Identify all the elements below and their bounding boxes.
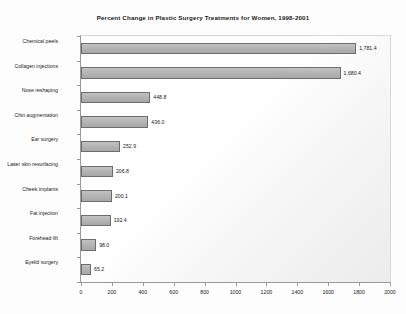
bar-value-label: 98.0	[99, 240, 109, 250]
chart-title: Percent Change in Plastic Surgery Treatm…	[0, 14, 406, 21]
x-axis-tick	[236, 283, 237, 286]
category-label: Collagen injections	[0, 61, 58, 71]
x-axis-tick	[359, 283, 360, 286]
bar[interactable]	[81, 92, 150, 104]
bar[interactable]	[81, 166, 113, 178]
y-axis-tick	[77, 208, 80, 209]
bar-row: Cheek implants 200.1	[81, 184, 390, 209]
category-label: Laser skin resurfacing	[0, 159, 58, 169]
category-label: Cheek implants	[0, 184, 58, 194]
bar-row: Laser skin resurfacing 206.8	[81, 159, 390, 184]
bar-value-label: 436.0	[151, 117, 164, 127]
x-axis-tick	[174, 283, 175, 286]
y-axis-tick	[77, 159, 80, 160]
bar-row: Forehead lift 98.0	[81, 233, 390, 258]
bar-row: Collagen injections 1,680.4	[81, 61, 390, 86]
x-axis-tick	[81, 283, 82, 286]
bar[interactable]	[81, 264, 91, 276]
x-axis-tick	[297, 283, 298, 286]
bar-row: Ear surgery 252.9	[81, 134, 390, 159]
bar-row: Nose reshaping 448.8	[81, 85, 390, 110]
category-label: Fat injection	[0, 208, 58, 218]
bar[interactable]	[81, 67, 341, 79]
bar[interactable]	[81, 141, 120, 153]
x-axis-tick	[112, 283, 113, 286]
x-axis-tick	[266, 283, 267, 286]
bar[interactable]	[81, 190, 112, 202]
plot-area: Chemical peels 1,781.4 Collagen injectio…	[81, 36, 390, 282]
category-label: Chin augmentation	[0, 110, 58, 120]
x-axis-tick	[390, 283, 391, 286]
x-axis-tick	[328, 283, 329, 286]
category-label: Chemical peels	[0, 36, 58, 46]
y-axis-tick	[77, 61, 80, 62]
y-axis-tick	[77, 233, 80, 234]
y-axis-tick	[77, 36, 80, 37]
bar-value-label: 192.4	[114, 215, 127, 225]
bar-value-label: 1,680.4	[344, 68, 361, 78]
y-axis-tick	[77, 110, 80, 111]
y-axis-tick	[77, 257, 80, 258]
x-axis-tick	[143, 283, 144, 286]
category-label: Nose reshaping	[0, 85, 58, 95]
bar[interactable]	[81, 116, 148, 128]
category-label: Ear surgery	[0, 134, 58, 144]
category-label: Eyelid surgery	[0, 257, 58, 267]
y-axis-tick	[77, 85, 80, 86]
y-axis-tick	[77, 184, 80, 185]
y-axis-tick	[77, 134, 80, 135]
chart-container: Percent Change in Plastic Surgery Treatm…	[0, 0, 406, 314]
bar-value-label: 448.8	[153, 92, 166, 102]
bar-value-label: 1,781.4	[359, 43, 376, 53]
bar-value-label: 200.1	[115, 191, 128, 201]
bar-row: Chemical peels 1,781.4	[81, 36, 390, 61]
bar[interactable]	[81, 239, 96, 251]
bar-row: Eyelid surgery 65.2	[81, 257, 390, 282]
category-label: Forehead lift	[0, 233, 58, 243]
bar-value-label: 252.9	[123, 141, 136, 151]
bar-row: Fat injection 192.4	[81, 208, 390, 233]
bar[interactable]	[81, 215, 111, 227]
bar[interactable]	[81, 43, 356, 55]
bar-row: Chin augmentation 436.0	[81, 110, 390, 135]
y-axis-tick	[77, 282, 80, 283]
bar-value-label: 206.8	[116, 166, 129, 176]
x-axis-tick	[205, 283, 206, 286]
bar-value-label: 65.2	[94, 264, 104, 274]
x-axis-tick-label: 2000	[370, 289, 406, 295]
